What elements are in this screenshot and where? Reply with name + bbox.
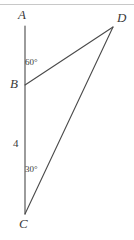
vertex-label-c: C	[19, 217, 28, 230]
length-label-bc: 4	[13, 138, 19, 149]
geometry-canvas	[0, 0, 134, 240]
vertex-label-b: B	[10, 77, 18, 90]
angle-label-at-b: 60°	[25, 58, 38, 67]
geometry-figure: A B C D 60° 30° 4	[0, 0, 134, 240]
segment-cd	[25, 27, 113, 214]
vertex-label-d: D	[117, 11, 126, 24]
angle-label-at-c: 30°	[25, 165, 38, 174]
vertex-label-a: A	[18, 8, 26, 21]
